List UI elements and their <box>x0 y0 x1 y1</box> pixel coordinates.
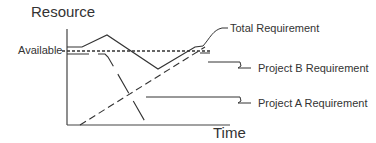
project-b-requirement-line <box>67 54 147 125</box>
total-requirement-connector <box>203 28 228 46</box>
project-b-requirement-label: Project B Requirement <box>258 62 369 74</box>
y-axis-title: Resource <box>31 3 95 20</box>
total-requirement-line <box>67 35 203 69</box>
project-b-connector <box>208 62 251 68</box>
project-a-requirement-label: Project A Requirement <box>258 97 367 109</box>
available-label: Available <box>18 44 62 56</box>
total-requirement-label: Total Requirement <box>230 22 319 34</box>
x-axis-title: Time <box>213 124 246 141</box>
project-a-connector <box>146 97 251 103</box>
